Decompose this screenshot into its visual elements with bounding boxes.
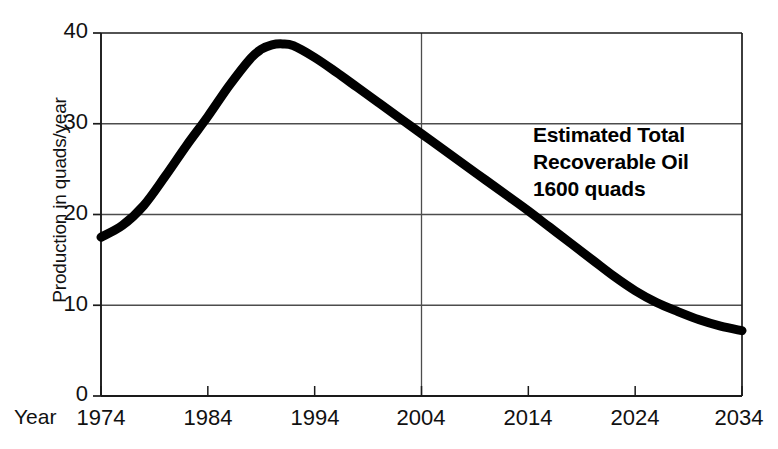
plot-area [0, 0, 778, 449]
annotation-estimated-recoverable-oil: Estimated Total Recoverable Oil 1600 qua… [533, 122, 689, 203]
annotation-line-1: Estimated Total [533, 122, 689, 149]
annotation-line-2: Recoverable Oil [533, 149, 689, 176]
annotation-line-3: 1600 quads [533, 176, 689, 203]
chart-figure: Production in quads/year 40 30 20 10 0 Y… [0, 0, 778, 449]
gridlines [101, 33, 742, 396]
